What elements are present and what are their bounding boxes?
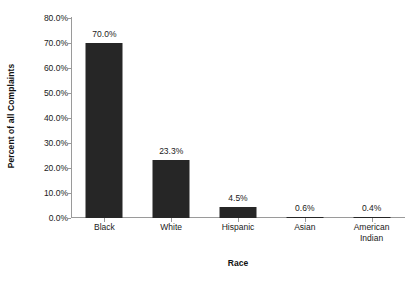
y-axis-tick-label: 50.0% [20, 89, 68, 98]
x-axis-tick-label: AmericanIndian [339, 222, 405, 244]
bar-value-label: 4.5% [228, 194, 247, 203]
x-axis-title: Race [71, 258, 405, 268]
bar-group: 4.5% [205, 18, 272, 218]
bar[interactable] [353, 217, 390, 219]
bar-group: 23.3% [138, 18, 205, 218]
bar-group: 0.6% [271, 18, 338, 218]
y-axis-tick-label: 10.0% [20, 189, 68, 198]
bar-value-label: 70.0% [92, 30, 116, 39]
bar[interactable] [286, 217, 323, 219]
bar-series: 70.0%23.3%4.5%0.6%0.4% [71, 18, 405, 218]
y-axis-tick-label: 0.0% [20, 214, 68, 223]
bar-value-label: 23.3% [159, 147, 183, 156]
y-axis-title-text: Percent of all Complaints [6, 64, 16, 169]
y-axis-tick-label: 20.0% [20, 164, 68, 173]
bar[interactable] [86, 43, 123, 218]
y-axis-tick-mark [67, 218, 71, 219]
y-axis-tick-label: 70.0% [20, 39, 68, 48]
y-axis-tick-label: 40.0% [20, 114, 68, 123]
x-axis-tick-label: Black [71, 222, 137, 233]
y-axis-tick-label: 60.0% [20, 64, 68, 73]
y-axis-tick-label: 80.0% [20, 14, 68, 23]
x-axis-tick-label: Hispanic [205, 222, 271, 233]
x-axis-tick-label: White [138, 222, 204, 233]
x-axis-tick-label: Asian [272, 222, 338, 233]
bar-group: 0.4% [338, 18, 405, 218]
plot-area: 70.0%23.3%4.5%0.6%0.4% [71, 18, 405, 218]
x-axis-tick-labels: BlackWhiteHispanicAsianAmericanIndian [71, 222, 405, 258]
y-axis-tick-labels: 0.0%10.0%20.0%30.0%40.0%50.0%60.0%70.0%8… [20, 0, 68, 282]
bar[interactable] [219, 207, 256, 218]
y-axis-title: Percent of all Complaints [4, 0, 18, 232]
bar-value-label: 0.4% [362, 204, 381, 213]
bar-chart: Percent of all Complaints 0.0%10.0%20.0%… [0, 0, 411, 282]
bar-group: 70.0% [71, 18, 138, 218]
y-axis-tick-label: 30.0% [20, 139, 68, 148]
bar-value-label: 0.6% [295, 204, 314, 213]
bar[interactable] [153, 160, 190, 218]
